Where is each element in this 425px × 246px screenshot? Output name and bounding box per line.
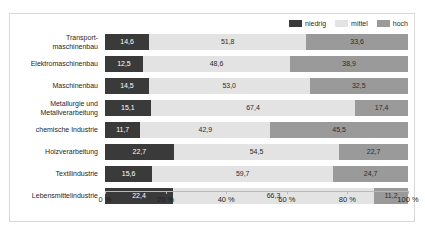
x-tick-label: 80 % xyxy=(339,195,356,204)
legend-swatch-niedrig xyxy=(289,20,302,27)
legend-label-niedrig: niedrig xyxy=(305,20,326,28)
bar-segment-hoch[interactable]: 17,4 xyxy=(355,100,408,116)
x-tick xyxy=(347,191,348,194)
bar-segment-hoch[interactable]: 24,7 xyxy=(333,166,408,182)
x-tick xyxy=(226,191,227,194)
bar-row: Transport- maschinenbau14,651,833,6 xyxy=(10,34,414,50)
bar-segment-niedrig[interactable]: 14,6 xyxy=(105,34,149,50)
bar-row: chemische Industrie11,742,945,5 xyxy=(10,122,414,138)
bar-row: Maschinenbau14,553,032,5 xyxy=(10,78,414,94)
stacked-bar: 15,167,417,4 xyxy=(105,100,408,116)
bar-segment-niedrig[interactable]: 15,1 xyxy=(105,100,151,116)
chart-container: niedrig mittel hoch Transport- maschinen… xyxy=(9,13,415,222)
x-tick xyxy=(408,191,409,194)
x-tick-label: 40 % xyxy=(218,195,235,204)
category-label: Maschinenbau xyxy=(10,82,98,91)
category-label: Holzverarbeitung xyxy=(10,148,98,157)
bar-segment-hoch[interactable]: 45,5 xyxy=(270,122,408,138)
bar-row: Holzverarbeitung22,754,522,7 xyxy=(10,144,414,160)
bar-segment-mittel[interactable]: 67,4 xyxy=(151,100,355,116)
bar-segment-hoch[interactable]: 38,9 xyxy=(290,56,408,72)
stacked-bar: 22,754,522,7 xyxy=(105,144,408,160)
x-tick-label: 0 % xyxy=(99,195,112,204)
legend-swatch-hoch xyxy=(377,20,390,27)
legend-item-hoch[interactable]: hoch xyxy=(377,20,408,28)
x-tick-label: 20 % xyxy=(157,195,174,204)
bar-segment-niedrig[interactable]: 15,6 xyxy=(105,166,152,182)
category-label: Lebensmittelindustrie xyxy=(10,192,98,201)
x-axis-line xyxy=(105,191,408,192)
bar-segment-hoch[interactable]: 22,7 xyxy=(339,144,408,160)
bar-segment-niedrig[interactable]: 22,7 xyxy=(105,144,174,160)
x-tick xyxy=(105,191,106,194)
category-label: chemische Industrie xyxy=(10,126,98,135)
x-tick xyxy=(287,191,288,194)
stacked-bar: 14,553,032,5 xyxy=(105,78,408,94)
legend-label-hoch: hoch xyxy=(393,20,408,28)
bar-segment-niedrig[interactable]: 12,5 xyxy=(105,56,143,72)
legend-label-mittel: mittel xyxy=(351,20,368,28)
category-label: Elektromaschinenbau xyxy=(10,60,98,69)
stacked-bar: 12,548,638,9 xyxy=(105,56,408,72)
bar-row: Textilindustrie15,659,724,7 xyxy=(10,166,414,182)
x-tick-label: 100 % xyxy=(397,195,418,204)
category-label: Textilindustrie xyxy=(10,170,98,179)
stacked-bar: 11,742,945,5 xyxy=(105,122,408,138)
plot-area: Transport- maschinenbau14,651,833,6Elekt… xyxy=(10,31,414,221)
bar-row: Elektromaschinenbau12,548,638,9 xyxy=(10,56,414,72)
bar-segment-hoch[interactable]: 32,5 xyxy=(310,78,408,94)
stacked-bar: 15,659,724,7 xyxy=(105,166,408,182)
bar-segment-mittel[interactable]: 54,5 xyxy=(174,144,339,160)
category-label: Metallurgie und Metallverarbeitung xyxy=(10,100,98,117)
legend-item-mittel[interactable]: mittel xyxy=(335,20,368,28)
x-tick-label: 60 % xyxy=(278,195,295,204)
bar-segment-hoch[interactable]: 33,6 xyxy=(306,34,408,50)
bar-segment-mittel[interactable]: 48,6 xyxy=(143,56,290,72)
bar-segment-niedrig[interactable]: 11,7 xyxy=(105,122,140,138)
bar-segment-mittel[interactable]: 42,9 xyxy=(140,122,270,138)
x-tick xyxy=(166,191,167,194)
bar-row: Metallurgie und Metallverarbeitung15,167… xyxy=(10,100,414,116)
x-axis: 0 %20 %40 %60 %80 %100 % xyxy=(105,191,408,205)
stacked-bar: 14,651,833,6 xyxy=(105,34,408,50)
category-label: Transport- maschinenbau xyxy=(10,34,98,51)
bar-segment-niedrig[interactable]: 14,5 xyxy=(105,78,149,94)
bar-segment-mittel[interactable]: 53,0 xyxy=(149,78,310,94)
bar-segment-mittel[interactable]: 59,7 xyxy=(152,166,333,182)
legend-swatch-mittel xyxy=(335,20,348,27)
legend-item-niedrig[interactable]: niedrig xyxy=(289,20,326,28)
bar-segment-mittel[interactable]: 51,8 xyxy=(149,34,306,50)
chart-legend: niedrig mittel hoch xyxy=(289,18,408,29)
